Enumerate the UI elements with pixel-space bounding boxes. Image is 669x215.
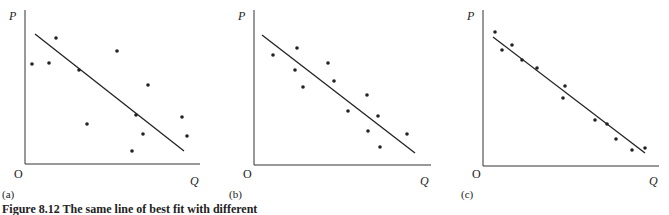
- origin-label: O: [14, 167, 23, 181]
- panel-tag: (b): [229, 188, 242, 201]
- data-points: [493, 30, 647, 152]
- x-axis-label: Q: [190, 174, 199, 188]
- origin-label: O: [243, 167, 252, 181]
- fit-line: [35, 34, 184, 151]
- data-points: [271, 46, 409, 149]
- panel-c: P O Q (c): [461, 9, 659, 201]
- y-axis-label: P: [237, 9, 246, 23]
- x-axis-label: Q: [420, 174, 429, 188]
- panel-tag: (a): [2, 188, 15, 201]
- panel-b: P O Q (b): [229, 9, 431, 201]
- y-axis-label: P: [8, 9, 17, 23]
- fit-line: [262, 35, 415, 153]
- fit-line: [493, 37, 645, 153]
- x-axis-label: Q: [649, 174, 658, 188]
- figure-caption: Figure 8.12 The same line of best fit wi…: [2, 202, 257, 215]
- y-axis-label: P: [466, 9, 475, 23]
- origin-label: O: [472, 167, 481, 181]
- figure-scatter-panels: P O Q (a) P O Q (b) P O Q (c): [0, 0, 669, 215]
- panel-a: P O Q (a): [2, 9, 200, 201]
- panel-tag: (c): [461, 188, 474, 201]
